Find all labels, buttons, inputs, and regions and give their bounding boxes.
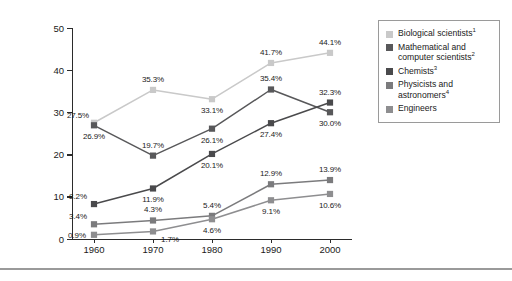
x-tick-label: 2000 (319, 244, 340, 255)
data-point-label: 9.1% (262, 207, 280, 216)
data-point-marker (268, 181, 274, 187)
y-tick-label: 30 (53, 107, 64, 118)
x-tick-label: 1960 (83, 244, 104, 255)
data-point-marker (91, 221, 97, 227)
data-point-marker (209, 151, 215, 157)
legend-item-label: Mathematical andcomputer scientists2 (398, 42, 475, 63)
data-point-label: 26.9% (83, 132, 105, 141)
data-point-label: 26.1% (201, 135, 223, 144)
data-point-label: 30.0% (319, 119, 341, 128)
data-point-marker (209, 216, 215, 222)
legend-footnote-marker: 2 (472, 51, 475, 57)
data-point-label: 20.1% (201, 160, 223, 169)
data-point-label: 13.9% (319, 165, 341, 174)
data-point-label: 4.6% (203, 226, 221, 235)
figure-root: Percentage of Employed Professionals Who… (0, 0, 512, 281)
data-point-label: 3.4% (69, 212, 87, 221)
legend-footnote-marker: 1 (473, 27, 476, 33)
data-point-label: 8.2% (69, 192, 87, 201)
legend-swatch-icon (386, 82, 393, 89)
data-point-marker (327, 177, 333, 183)
plot-area: Percentage of Employed Professionals Who… (72, 28, 352, 240)
data-point-marker (150, 228, 156, 234)
data-point-label: 32.3% (319, 87, 341, 96)
legend-footnote-marker: 4 (446, 89, 449, 95)
data-point-label: 1.7% (161, 235, 179, 244)
data-point-label: 35.3% (142, 74, 164, 83)
data-point-marker (150, 217, 156, 223)
legend-item-label: Chemists3 (398, 66, 437, 77)
x-tick-label: 1970 (142, 244, 163, 255)
series-chemists (91, 99, 333, 207)
data-point-label: 33.1% (201, 106, 223, 115)
legend: Biological scientists1Mathematical andco… (378, 20, 500, 123)
data-point-label: 27.4% (260, 130, 282, 139)
legend-item-mathematical-and-computer-scientists[interactable]: Mathematical andcomputer scientists2 (386, 42, 493, 63)
data-point-marker (91, 232, 97, 238)
y-tick-label: 20 (53, 149, 64, 160)
data-point-marker (268, 60, 274, 66)
y-tick-label: 40 (53, 65, 64, 76)
legend-item-biological-scientists[interactable]: Biological scientists1 (386, 28, 493, 39)
legend-item-label: Biological scientists1 (398, 28, 476, 39)
legend-item-engineers[interactable]: Engineers (386, 103, 493, 114)
data-point-marker (327, 99, 333, 105)
data-point-label: 11.9% (142, 195, 164, 204)
data-point-label: 12.9% (260, 169, 282, 178)
data-point-marker (150, 153, 156, 159)
data-point-marker (91, 201, 97, 207)
data-point-marker (327, 191, 333, 197)
y-axis-title: Percentage of Employed Professionals Who… (0, 119, 36, 149)
data-point-label: 41.7% (260, 47, 282, 56)
y-tick-label: 10 (53, 191, 64, 202)
data-point-marker (268, 197, 274, 203)
legend-item-chemists[interactable]: Chemists3 (386, 66, 493, 77)
data-point-marker (150, 185, 156, 191)
legend-item-physicists-and-astronomers[interactable]: Physicists andastronomers4 (386, 79, 493, 100)
legend-swatch-icon (386, 68, 393, 75)
legend-footnote-marker: 3 (434, 65, 437, 71)
data-point-marker (91, 122, 97, 128)
x-tick-label: 1990 (260, 244, 281, 255)
y-tick-label: 50 (53, 23, 64, 34)
x-tick-label: 1980 (201, 244, 222, 255)
data-point-marker (268, 120, 274, 126)
data-point-marker (327, 109, 333, 115)
data-point-label: 0.9% (68, 230, 86, 239)
legend-swatch-icon (386, 106, 393, 113)
legend-item-label: Engineers (398, 103, 437, 114)
data-point-marker (150, 87, 156, 93)
legend-item-label: Physicists andastronomers4 (398, 79, 453, 100)
data-point-label: 44.1% (319, 37, 341, 46)
data-point-label: 5.4% (203, 200, 221, 209)
legend-swatch-icon (386, 31, 393, 38)
data-point-marker (209, 126, 215, 132)
data-point-label: 19.7% (142, 140, 164, 149)
data-point-marker (268, 86, 274, 92)
data-point-label: 35.4% (260, 74, 282, 83)
legend-swatch-icon (386, 44, 393, 51)
data-point-marker (327, 50, 333, 56)
data-point-label: 4.3% (144, 205, 162, 214)
bottom-divider (0, 268, 512, 270)
data-point-marker (209, 96, 215, 102)
data-point-label: 27.5% (67, 110, 89, 119)
y-tick-label: 0 (59, 233, 64, 244)
data-point-label: 10.6% (319, 200, 341, 209)
